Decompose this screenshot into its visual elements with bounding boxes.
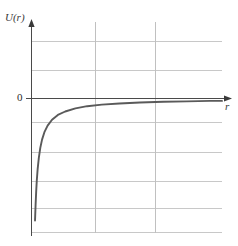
origin-tick-label: 0 <box>17 92 23 103</box>
vertical-gridlines <box>96 22 156 233</box>
x-axis-label: r <box>225 101 229 112</box>
y-axis-arrowhead <box>28 19 34 27</box>
potential-energy-figure: U(r) r 0 <box>0 0 238 246</box>
potential-energy-curve <box>35 101 222 221</box>
y-axis-label: U(r) <box>5 12 25 23</box>
y-axis <box>28 19 34 236</box>
plot-canvas <box>0 0 238 246</box>
horizontal-gridlines <box>31 42 222 233</box>
